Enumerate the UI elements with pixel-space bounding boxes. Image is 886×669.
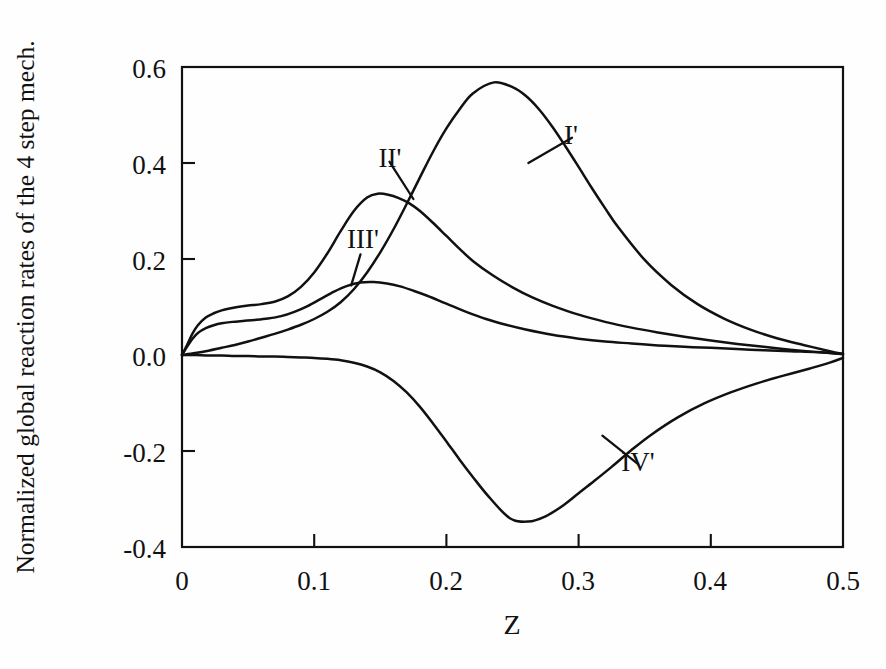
y-axis-ticks — [182, 163, 195, 451]
series-label-two: II' — [379, 143, 402, 173]
annotation-leader-lines — [351, 138, 638, 464]
y-tick-label-3: 0.0 — [132, 342, 166, 372]
y-tick-label-0: 0.6 — [132, 54, 166, 84]
series-label-one: I' — [564, 120, 578, 150]
x-tick-label-0: 0 — [175, 566, 189, 596]
series-curve-Iprime — [182, 82, 843, 355]
plot-frame — [182, 67, 843, 547]
series-label-four: IV' — [621, 447, 654, 477]
series-curve-IVprime — [182, 355, 843, 522]
x-axis-ticks — [314, 534, 711, 547]
line-chart: 0.6 0.4 0.2 0.0 -0.2 -0.4 0 0.1 0.2 0.3 … — [0, 0, 886, 669]
y-tick-label-1: 0.4 — [132, 150, 166, 180]
y-tick-label-5: -0.4 — [123, 534, 166, 564]
figure-canvas: 0.6 0.4 0.2 0.0 -0.2 -0.4 0 0.1 0.2 0.3 … — [0, 0, 886, 669]
data-series-group — [182, 82, 843, 522]
series-label-three: III' — [347, 224, 379, 254]
x-tick-label-1: 0.1 — [297, 566, 331, 596]
x-tick-label-3: 0.3 — [561, 566, 595, 596]
y-axis-title: Normalized global reaction rates of the … — [11, 40, 40, 573]
x-tick-label-5: 0.5 — [826, 566, 860, 596]
y-tick-label-4: -0.2 — [123, 438, 166, 468]
x-tick-label-4: 0.4 — [693, 566, 727, 596]
y-tick-label-2: 0.2 — [132, 246, 166, 276]
leader-line-IIIprime — [351, 254, 360, 285]
x-tick-label-2: 0.2 — [429, 566, 463, 596]
x-axis-title: Z — [503, 609, 520, 640]
